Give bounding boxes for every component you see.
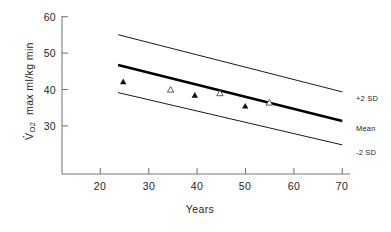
annotation-plus-2sd: +2 SD [356,94,378,103]
line-mean [118,65,342,121]
chart-container: 60 50 40 30 20 30 40 50 60 70 +2 SD Mean… [0,0,391,232]
y-axis-ticks [62,17,68,126]
y-axis-title-rest: max ml/kg min [23,42,35,115]
x-tick-label-30: 30 [136,180,162,192]
x-tick-label-40: 40 [184,180,210,192]
x-axis-title: Years [140,203,260,215]
y-axis-title-symbol: V [23,132,35,139]
marker-open-1 [167,87,173,93]
marker-filled-3 [242,103,248,109]
x-tick-label-70: 70 [329,180,355,192]
series-lines [118,35,342,145]
axis-lines [62,16,350,174]
y-axis-title: VO2 max ml/kg min [23,15,35,167]
marker-filled-1 [120,79,126,85]
x-tick-label-60: 60 [281,180,307,192]
line-minus-2sd [118,93,342,145]
line-plus-2sd [118,35,342,92]
x-tick-label-20: 20 [87,180,113,192]
annotation-minus-2sd: -2 SD [356,148,376,157]
x-tick-label-50: 50 [232,180,258,192]
y-axis-title-subscript: O2 [28,122,37,133]
chart-plot-area [0,0,391,232]
marker-filled-2 [192,92,198,98]
x-axis-ticks [100,168,342,174]
annotation-mean: Mean [356,124,376,133]
